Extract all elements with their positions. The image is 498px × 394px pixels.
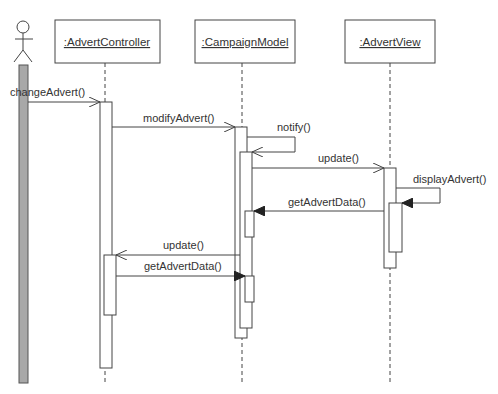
message-label-update-controller: update() xyxy=(163,239,204,251)
object-label: :AdvertController xyxy=(64,36,150,48)
message-label-update-view: update() xyxy=(318,152,359,164)
message-label-modify-advert: modifyAdvert() xyxy=(143,112,215,124)
actor-activation-bar xyxy=(19,65,28,383)
activation-view-display xyxy=(389,203,402,252)
activation-controller-nested xyxy=(104,255,116,315)
activation-model-getdata-2 xyxy=(245,276,254,302)
object-label: :CampaignModel xyxy=(202,36,289,48)
message-label-get-advert-data-2: getAdvertData() xyxy=(144,260,222,272)
activation-model-getdata-1 xyxy=(245,211,254,237)
object-advert-controller: :AdvertController xyxy=(55,20,160,63)
message-arrow-display-advert xyxy=(396,188,440,203)
message-label-get-advert-data-1: getAdvertData() xyxy=(288,196,366,208)
activation-controller xyxy=(100,102,112,368)
object-campaign-model: :CampaignModel xyxy=(195,20,295,63)
message-label-change-advert: changeAdvert() xyxy=(10,86,85,98)
message-arrow-notify xyxy=(247,137,295,152)
activation-bars xyxy=(100,102,402,368)
actor-stick-figure-icon xyxy=(14,21,33,62)
message-label-display-advert: displayAdvert() xyxy=(413,173,486,185)
message-label-notify: notify() xyxy=(277,121,311,133)
object-advert-view: :AdvertView xyxy=(345,20,435,63)
sequence-diagram: :AdvertController :CampaignModel :Advert… xyxy=(0,0,498,394)
object-label: :AdvertView xyxy=(359,36,421,48)
